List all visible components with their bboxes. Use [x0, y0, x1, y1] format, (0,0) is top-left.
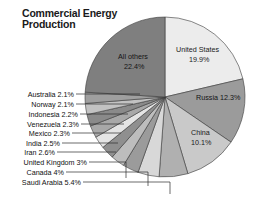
- callout-label-saudi-arabia: Saudi Arabia 5.4%: [22, 178, 82, 187]
- chart-canvas: Commercial Energy Production United Stat…: [0, 0, 260, 208]
- callout-label-canada: Canada 4%: [26, 168, 64, 177]
- slice-label-china-line-1: China: [191, 128, 210, 137]
- callout-label-mexico: Mexico 2.3%: [29, 129, 71, 138]
- chart-title-line-2: Production: [22, 18, 75, 30]
- slice-label-all-others-line-1: All others: [118, 52, 148, 61]
- slice-label-united-states-line-1: United States: [176, 45, 220, 54]
- slice-label-all-others-line-2: 22.4%: [124, 62, 145, 71]
- callout-label-australia: Australia 2.1%: [28, 90, 75, 99]
- slice-label-china-line-2: 10.1%: [191, 138, 212, 147]
- callout-label-united-kingdom: United Kingdom 3%: [23, 158, 87, 167]
- slice-label-russia: Russia 12.3%: [196, 93, 241, 102]
- leader-line-saudi-arabia: [83, 182, 170, 194]
- pie-chart-figure: Commercial Energy Production United Stat…: [0, 0, 260, 208]
- callout-label-venezuela: Venezuela 2.3%: [27, 120, 80, 129]
- callout-label-india: India 2.5%: [26, 139, 61, 148]
- callout-label-iran: Iran 2.6%: [24, 148, 55, 157]
- callout-label-indonesia: Indonesia 2.2%: [28, 110, 78, 119]
- leader-line-united-kingdom: [89, 162, 126, 178]
- slice-label-united-states-line-2: 19.9%: [189, 55, 210, 64]
- callout-label-norway: Norway 2.1%: [31, 100, 74, 109]
